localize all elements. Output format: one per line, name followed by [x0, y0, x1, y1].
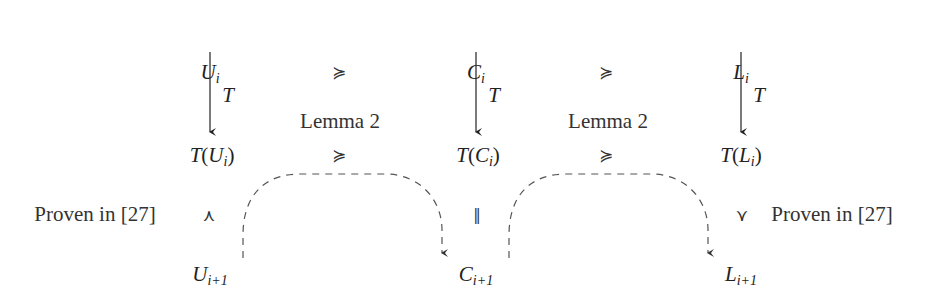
- node-L-i-plus-1: Li+1: [725, 262, 757, 287]
- proven-in-27-right: Proven in [27]: [771, 202, 892, 227]
- arrow-label-T-L: T: [753, 83, 765, 108]
- curly-vee-relation: ⋎: [736, 205, 748, 225]
- node-T-C-i: T(Ci): [456, 143, 500, 168]
- node-T-L-i: T(Li): [720, 143, 761, 168]
- node-L-i: Li: [733, 60, 749, 85]
- node-C-i: Ci: [467, 60, 485, 85]
- node-C-i-plus-1: Ci+1: [459, 262, 493, 287]
- arrow-label-T-U: T: [222, 83, 234, 108]
- lemma-2-label-1: Lemma 2: [300, 109, 380, 134]
- lemma-2-label-2: Lemma 2: [568, 109, 648, 134]
- proven-in-27-left: Proven in [27]: [34, 202, 155, 227]
- dashed-arrow-U-to-C: [243, 174, 442, 258]
- succeq-relation-top-1: ≽: [332, 62, 346, 82]
- node-U-i-plus-1: Ui+1: [192, 262, 228, 287]
- curly-wedge-relation: ⋏: [203, 205, 215, 225]
- dashed-arrow-C-to-L: [509, 174, 708, 258]
- succeq-relation-mid-2: ≽: [599, 145, 613, 165]
- equals-relation: ‖: [473, 206, 481, 224]
- succeq-relation-mid-1: ≽: [332, 145, 346, 165]
- node-T-U-i: T(Ui): [190, 143, 235, 168]
- arrow-label-T-C: T: [488, 83, 500, 108]
- node-U-i: Ui: [200, 60, 219, 85]
- succeq-relation-top-2: ≽: [599, 62, 613, 82]
